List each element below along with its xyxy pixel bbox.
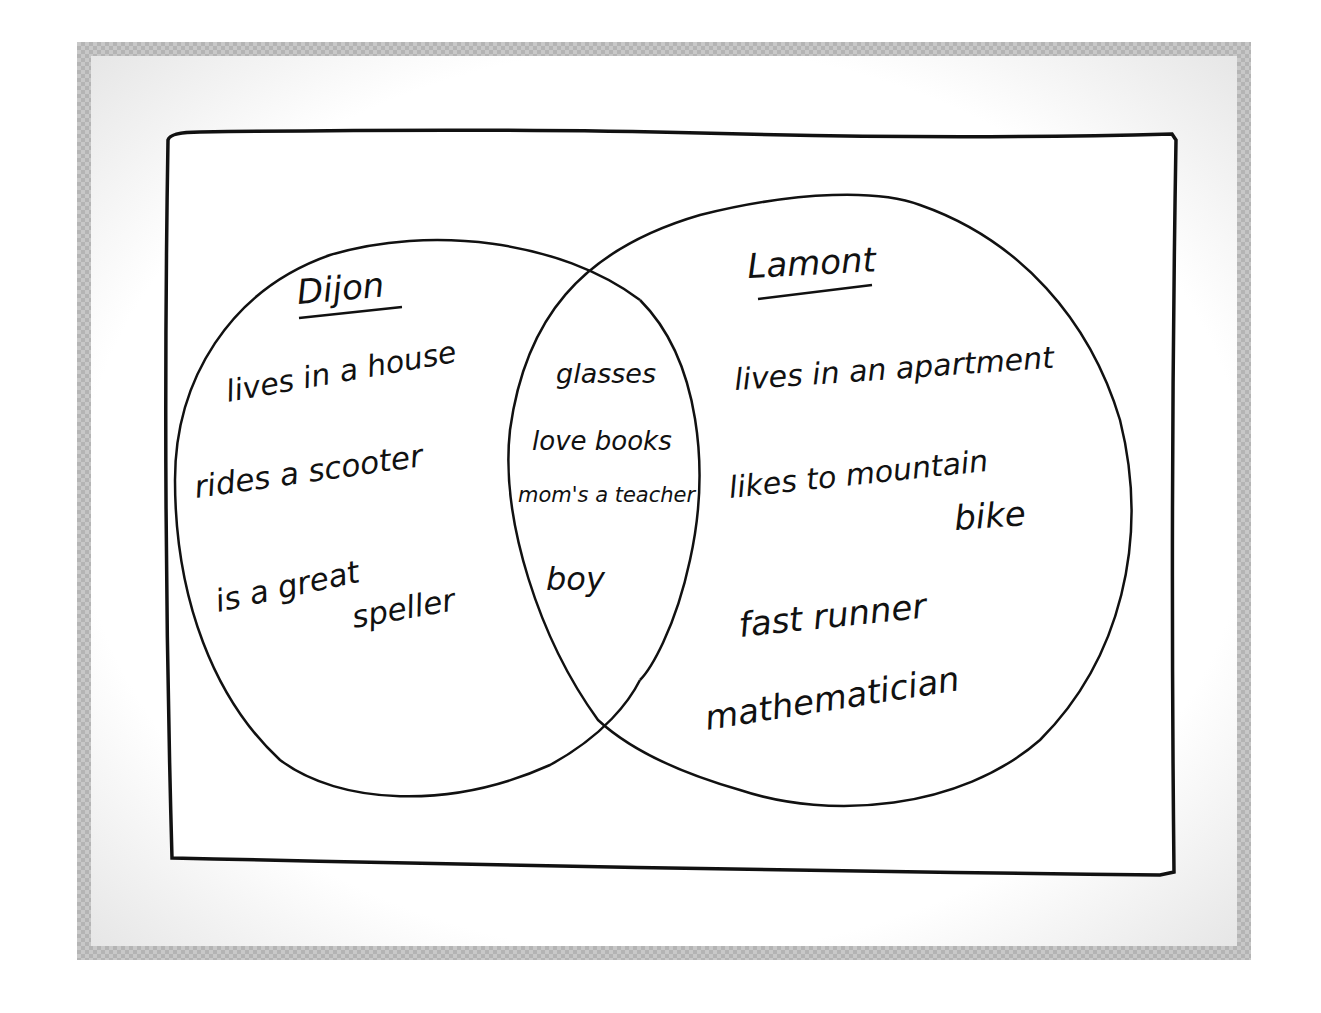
overlap-item-4: boy (546, 560, 606, 598)
lamont-item-3: bike (953, 493, 1027, 538)
dijon-title: Dijon (295, 265, 386, 312)
venn-diagram: Dijon lives in a house rides a scooter i… (0, 0, 1321, 1013)
lamont-title: Lamont (746, 239, 878, 286)
overlap-item-1: glasses (556, 358, 656, 389)
overlap-item-3: mom's a teacher (518, 483, 696, 507)
overlap-item-2: love books (532, 426, 672, 456)
